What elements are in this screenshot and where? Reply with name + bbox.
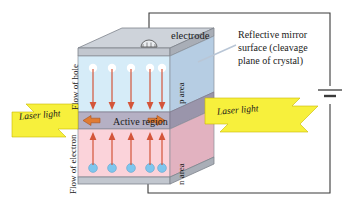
reflective-mirror-label: Reflective mirror surface (cleavage plan… bbox=[238, 29, 308, 67]
flow-of-hole-line-2: hole bbox=[70, 64, 80, 80]
mirror-label-line-3: plane of crystal) bbox=[238, 55, 308, 68]
flow-of-hole-label: Flow of hole bbox=[70, 64, 80, 110]
flow-of-electron-label: Flow of electron bbox=[68, 135, 78, 195]
p-area-label: p area bbox=[176, 82, 186, 104]
electrode-slab-front-face bbox=[78, 48, 170, 56]
n-area-label: n area bbox=[176, 163, 186, 185]
bottom-slab-front-face bbox=[78, 177, 170, 184]
mirror-label-line-2: surface (cleavage bbox=[238, 42, 308, 55]
flow-of-hole-line-1: Flow of bbox=[70, 82, 80, 110]
flow-of-electron-line-2: electron bbox=[68, 135, 78, 164]
electrode-label: electrode bbox=[171, 30, 209, 42]
flow-of-electron-line-1: Flow of bbox=[68, 166, 78, 194]
active-region-label: Active region bbox=[113, 116, 168, 127]
mirror-label-line-1: Reflective mirror bbox=[238, 29, 308, 42]
diagram-canvas: electrode Reflective mirror surface (cle… bbox=[0, 0, 357, 210]
